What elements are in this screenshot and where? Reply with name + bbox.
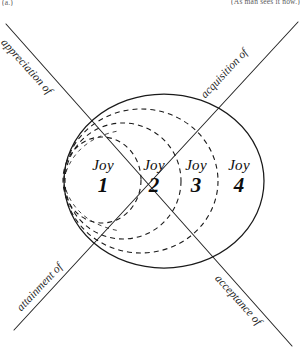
figure-canvas: (a.) (As man sees it now.) Joy 1 Joy xyxy=(0,0,304,354)
joy2-word: Joy xyxy=(132,158,176,173)
region-label-joy1: Joy 1 xyxy=(78,158,128,196)
joy3-number: 3 xyxy=(175,175,217,196)
joy4-word: Joy xyxy=(218,158,260,173)
joy2-number: 2 xyxy=(132,175,176,196)
region-label-joy4: Joy 4 xyxy=(218,158,260,196)
region-label-joy2: Joy 2 xyxy=(132,158,176,196)
joy1-number: 1 xyxy=(78,175,128,196)
region-label-joy3: Joy 3 xyxy=(175,158,217,196)
joy4-number: 4 xyxy=(218,175,260,196)
joy1-word: Joy xyxy=(78,158,128,173)
joy3-word: Joy xyxy=(175,158,217,173)
